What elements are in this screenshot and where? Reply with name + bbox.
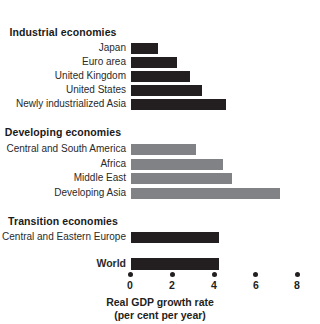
axis-tick-dot-8 — [295, 272, 300, 277]
group-heading-developing-economies: Developing economies — [0, 126, 126, 138]
axis-tick-dot-2 — [170, 272, 175, 277]
bar-newly-industrialized-asia — [131, 99, 226, 110]
axis-tick-dot-6 — [253, 272, 258, 277]
axis-tick-label-8: 8 — [285, 279, 309, 291]
bar-united-kingdom — [131, 71, 190, 82]
bar-row-euro-area: Euro area — [0, 56, 320, 69]
bar-label-middle-east: Middle East — [0, 172, 126, 184]
bar-row-central-eastern-europe: Central and Eastern Europe — [0, 231, 320, 244]
group-heading-industrial-economies: Industrial economies — [0, 26, 126, 38]
gdp-growth-bar-chart: Industrial economies Japan Euro area Uni… — [0, 0, 320, 324]
axis-tick-label-6: 6 — [244, 279, 268, 291]
bar-label-developing-asia: Developing Asia — [0, 187, 126, 199]
bar-label-world: World — [0, 257, 126, 269]
bar-central-south-america — [131, 144, 196, 155]
group-heading-transition-economies: Transition economies — [0, 215, 126, 227]
bar-world — [131, 258, 219, 270]
axis-tick-label-4: 4 — [202, 279, 226, 291]
bar-label-central-south-america: Central and South America — [0, 143, 126, 155]
bar-label-united-kingdom: United Kingdom — [0, 70, 126, 82]
bar-africa — [131, 159, 223, 170]
x-axis: 0 2 4 6 8 — [0, 272, 320, 298]
axis-tick-label-0: 0 — [118, 279, 142, 291]
bar-row-newly-industrialized-asia: Newly industrialized Asia — [0, 98, 320, 111]
bar-label-central-eastern-europe: Central and Eastern Europe — [0, 231, 126, 243]
bar-row-united-kingdom: United Kingdom — [0, 70, 320, 83]
bar-row-world: World — [0, 257, 320, 270]
bar-label-euro-area: Euro area — [0, 56, 126, 68]
bar-japan — [131, 43, 158, 54]
bar-middle-east — [131, 173, 232, 184]
bar-row-united-states: United States — [0, 84, 320, 97]
axis-tick-dot-4 — [212, 272, 217, 277]
bar-row-central-south-america: Central and South America — [0, 143, 320, 156]
bar-label-newly-industrialized-asia: Newly industrialized Asia — [0, 98, 126, 110]
axis-tick-label-2: 2 — [160, 279, 184, 291]
x-axis-title-line1: Real GDP growth rate — [106, 296, 214, 308]
bar-row-japan: Japan — [0, 42, 320, 55]
axis-tick-dot-0 — [128, 272, 133, 277]
bar-label-japan: Japan — [0, 42, 126, 54]
x-axis-title-line2: (per cent per year) — [0, 309, 320, 322]
bar-row-developing-asia: Developing Asia — [0, 187, 320, 200]
bar-central-eastern-europe — [131, 232, 219, 243]
bar-row-middle-east: Middle East — [0, 172, 320, 185]
bar-developing-asia — [131, 188, 280, 199]
bar-row-africa: Africa — [0, 158, 320, 171]
bar-united-states — [131, 85, 202, 96]
bar-label-united-states: United States — [0, 84, 126, 96]
bar-euro-area — [131, 57, 177, 68]
x-axis-title: Real GDP growth rate (per cent per year) — [0, 296, 320, 322]
bar-label-africa: Africa — [0, 158, 126, 170]
